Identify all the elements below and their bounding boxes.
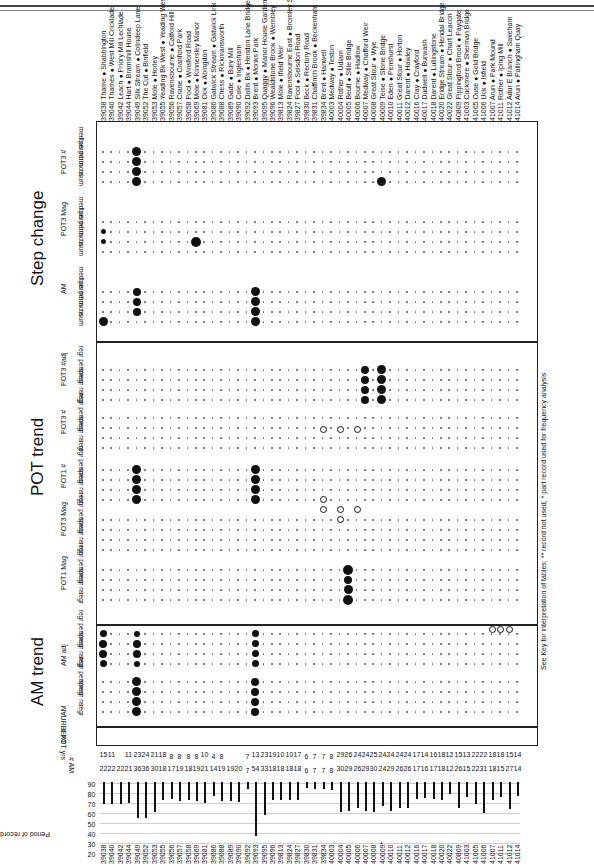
am-count: 7 bbox=[321, 767, 325, 774]
grid-dot bbox=[432, 221, 434, 223]
bottom-station-id: 39052 bbox=[142, 845, 149, 864]
station-label: 39830 Beck ● Rectory Road bbox=[303, 33, 311, 121]
grid-dot bbox=[271, 499, 273, 501]
subhdr-step-pot3-mag: POT3 Mag bbox=[60, 202, 67, 236]
grid-dot bbox=[195, 479, 197, 481]
grid-dot bbox=[203, 681, 205, 683]
grid-dot bbox=[271, 301, 273, 303]
grid-dot bbox=[127, 579, 129, 581]
grid-dot bbox=[263, 499, 265, 501]
pot-years-count: 8 bbox=[220, 753, 224, 760]
grid-dot bbox=[423, 221, 425, 223]
column-header: regr bbox=[78, 592, 85, 604]
grid-dot bbox=[279, 301, 281, 303]
grid-dot bbox=[187, 499, 189, 501]
bottom-station-id: 39827 bbox=[294, 845, 301, 864]
grid-dot bbox=[102, 569, 104, 571]
period-tick-label: 60 bbox=[88, 811, 96, 818]
grid-dot bbox=[296, 469, 298, 471]
grid-dot bbox=[296, 643, 298, 645]
grid-dot bbox=[516, 519, 518, 521]
grid-dot bbox=[432, 589, 434, 591]
am-count: 22 bbox=[100, 765, 108, 772]
grid-dot bbox=[313, 691, 315, 693]
grid-dot bbox=[187, 301, 189, 303]
grid-dot bbox=[220, 681, 222, 683]
grid-dot bbox=[161, 241, 163, 243]
bottom-station-id: 39092 bbox=[244, 845, 251, 864]
grid-dot bbox=[432, 291, 434, 293]
grid-dot bbox=[356, 447, 358, 449]
bottom-station-id: 39086 bbox=[210, 845, 217, 864]
grid-dot bbox=[364, 241, 366, 243]
grid-dot bbox=[499, 291, 501, 293]
pot-years-count: 6 bbox=[304, 753, 308, 760]
grid-dot bbox=[330, 701, 332, 703]
period-bar bbox=[416, 782, 418, 799]
grid-dot bbox=[187, 663, 189, 665]
grid-dot bbox=[102, 151, 104, 153]
grid-dot bbox=[110, 301, 112, 303]
bottom-station-id: 39044 bbox=[125, 845, 132, 864]
grid-dot bbox=[440, 589, 442, 591]
grid-dot bbox=[279, 171, 281, 173]
grid-dot bbox=[178, 301, 180, 303]
grid-dot bbox=[195, 301, 197, 303]
grid-dot bbox=[364, 579, 366, 581]
grid-dot bbox=[161, 231, 163, 233]
period-bar bbox=[348, 782, 350, 811]
bottom-station-id: 39040 bbox=[108, 845, 115, 864]
grid-dot bbox=[465, 539, 467, 541]
grid-dot bbox=[178, 539, 180, 541]
grid-dot bbox=[423, 519, 425, 521]
grid-dot bbox=[389, 663, 391, 665]
grid-dot bbox=[102, 529, 104, 531]
grid-dot bbox=[423, 681, 425, 683]
period-bar bbox=[475, 782, 477, 804]
grid-dot bbox=[178, 389, 180, 391]
pot-yrs-label: # POT yrs bbox=[60, 729, 67, 760]
grid-dot bbox=[220, 181, 222, 183]
grid-dot bbox=[347, 447, 349, 449]
station-label: 39834 Brent ● Hanwell bbox=[320, 50, 328, 121]
grid-dot bbox=[465, 311, 467, 313]
grid-dot bbox=[279, 417, 281, 419]
grid-dot bbox=[482, 171, 484, 173]
grid-dot bbox=[110, 489, 112, 491]
grid-dot bbox=[203, 181, 205, 183]
grid-dot bbox=[271, 701, 273, 703]
grid-dot bbox=[203, 171, 205, 173]
grid-dot bbox=[296, 321, 298, 323]
pot-years-count: 16 bbox=[429, 751, 437, 758]
grid-dot bbox=[482, 417, 484, 419]
grid-dot bbox=[516, 711, 518, 713]
pot-years-count: 18 bbox=[497, 751, 505, 758]
grid-dot bbox=[364, 427, 366, 429]
grid-dot bbox=[364, 311, 366, 313]
grid-dot bbox=[440, 633, 442, 635]
grid-dot bbox=[110, 221, 112, 223]
grid-dot bbox=[465, 301, 467, 303]
pot-years-count: 24 bbox=[378, 751, 386, 758]
grid-dot bbox=[406, 479, 408, 481]
grid-dot bbox=[102, 379, 104, 381]
grid-dot bbox=[203, 529, 205, 531]
grid-dot bbox=[499, 231, 501, 233]
grid-dot bbox=[347, 519, 349, 521]
grid-dot bbox=[127, 691, 129, 693]
grid-dot bbox=[499, 681, 501, 683]
grid-dot bbox=[465, 499, 467, 501]
period-bar bbox=[441, 782, 443, 800]
grid-dot bbox=[499, 301, 501, 303]
grid-dot bbox=[364, 663, 366, 665]
grid-dot bbox=[389, 369, 391, 371]
grid-dot bbox=[313, 469, 315, 471]
grid-dot bbox=[406, 599, 408, 601]
grid-dot bbox=[161, 469, 163, 471]
grid-dot bbox=[178, 589, 180, 591]
grid-dot bbox=[254, 579, 256, 581]
grid-dot bbox=[102, 701, 104, 703]
grid-dot bbox=[482, 589, 484, 591]
pot-years-count: 11 bbox=[125, 751, 132, 758]
grid-dot bbox=[313, 291, 315, 293]
